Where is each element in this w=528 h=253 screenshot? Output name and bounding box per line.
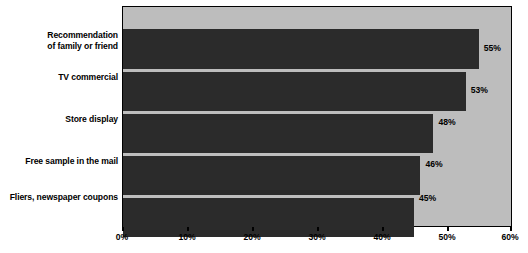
x-tick-30 bbox=[317, 227, 319, 231]
x-tick-label-40: 40% bbox=[373, 232, 390, 242]
bar-chart: Recommendation of family or friend TV co… bbox=[0, 0, 528, 253]
bar-store-display bbox=[123, 114, 433, 153]
category-label-store-display: Store display bbox=[0, 114, 118, 125]
bar-value-fliers-coupons: 45% bbox=[419, 193, 436, 203]
x-tick-50 bbox=[447, 227, 449, 231]
plot-area: 55% 53% 48% 46% 45% bbox=[122, 6, 512, 227]
x-tick-40 bbox=[382, 227, 384, 231]
x-tick-label-10: 10% bbox=[178, 232, 195, 242]
x-tick-label-20: 20% bbox=[243, 232, 260, 242]
bar-value-tv-commercial: 53% bbox=[471, 85, 488, 95]
bar-value-free-sample: 46% bbox=[425, 159, 442, 169]
bar-recommendation bbox=[123, 29, 479, 69]
category-label-recommendation: Recommendation of family or friend bbox=[0, 30, 118, 51]
category-label-fliers-coupons: Fliers, newspaper coupons bbox=[0, 192, 118, 203]
x-tick-label-50: 50% bbox=[438, 232, 455, 242]
x-tick-label-60: 60% bbox=[501, 232, 518, 242]
bar-value-store-display: 48% bbox=[438, 117, 455, 127]
plot-inner: 55% 53% 48% 46% 45% bbox=[123, 7, 511, 226]
x-axis: 0% 10% 20% 30% 40% 50% 60% bbox=[122, 227, 512, 253]
x-tick-10 bbox=[187, 227, 189, 231]
x-tick-label-0: 0% bbox=[116, 232, 128, 242]
bar-value-recommendation: 55% bbox=[484, 43, 501, 53]
category-label-tv-commercial: TV commercial bbox=[0, 72, 118, 83]
x-tick-0 bbox=[122, 227, 124, 231]
category-label-recommendation-line1: Recommendation bbox=[0, 30, 118, 41]
bar-free-sample bbox=[123, 156, 420, 195]
category-label-free-sample: Free sample in the mail bbox=[0, 156, 118, 167]
x-tick-20 bbox=[252, 227, 254, 231]
bar-tv-commercial bbox=[123, 72, 466, 111]
category-axis-labels: Recommendation of family or friend TV co… bbox=[0, 6, 118, 227]
x-tick-60 bbox=[510, 227, 512, 231]
category-label-recommendation-line2: of family or friend bbox=[0, 41, 118, 52]
x-tick-label-30: 30% bbox=[308, 232, 325, 242]
